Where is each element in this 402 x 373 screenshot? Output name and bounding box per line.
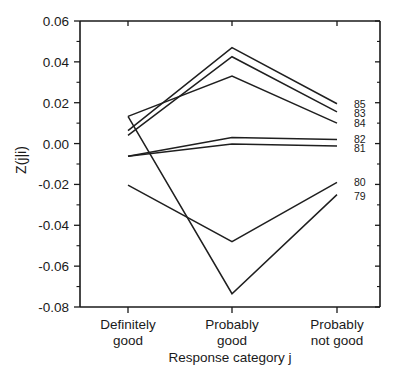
x-tick-labels: DefinitelygoodProbablygoodProbablynot go… bbox=[100, 317, 364, 348]
series-labels-group: 85838482818079 bbox=[354, 98, 366, 203]
series-label-84: 84 bbox=[354, 117, 366, 129]
y-tick-label-1: 0.04 bbox=[43, 55, 70, 70]
y-tick-label-3: 0.00 bbox=[43, 137, 69, 152]
x-tick-label-2-line-1: not good bbox=[311, 333, 364, 348]
line-chart-svg: 0.060.040.020.00-0.02-0.04-0.06-0.08 Def… bbox=[0, 0, 402, 373]
x-axis-title: Response category j bbox=[168, 350, 291, 365]
x-tick-label-2-line-0: Probably bbox=[310, 317, 364, 332]
y-tick-label-2: 0.02 bbox=[43, 96, 69, 111]
series-label-81: 81 bbox=[354, 142, 366, 154]
x-tick-label-1-line-1: good bbox=[217, 333, 247, 348]
y-tick-label-6: -0.06 bbox=[38, 259, 69, 274]
y-tick-label-4: -0.02 bbox=[38, 177, 69, 192]
y-tick-label-0: 0.06 bbox=[43, 14, 69, 29]
y-axis-title: Z(j|i) bbox=[13, 146, 29, 174]
x-tick-label-0-line-0: Definitely bbox=[100, 317, 156, 332]
x-tick-label-0-line-1: good bbox=[113, 333, 143, 348]
y-tick-label-7: -0.08 bbox=[38, 300, 69, 315]
y-tick-label-5: -0.04 bbox=[38, 218, 69, 233]
x-tick-label-1-line-0: Probably bbox=[205, 317, 259, 332]
series-label-79: 79 bbox=[354, 190, 366, 202]
chart-figure: 0.060.040.020.00-0.02-0.04-0.06-0.08 Def… bbox=[0, 0, 402, 373]
series-label-80: 80 bbox=[354, 176, 366, 188]
